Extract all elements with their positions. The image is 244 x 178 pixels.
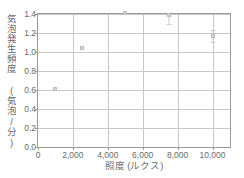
chart-figure: 気泡発生頻度 (気泡/分) 0.00.20.40.60.81.01.21.402… xyxy=(0,0,244,178)
x-tick-label: 10,000 xyxy=(200,151,226,160)
y-tick-label: 0.0 xyxy=(2,143,36,152)
gridline-horizontal xyxy=(38,90,230,91)
data-point xyxy=(53,87,57,91)
y-tick-label: 1.4 xyxy=(2,10,36,19)
gridline-horizontal xyxy=(38,71,230,72)
x-tick-label: 0 xyxy=(36,151,41,160)
x-tick-label: 2,000 xyxy=(62,151,83,160)
data-point xyxy=(167,13,171,17)
plot-area: 0.00.20.40.60.81.01.21.402,0004,0006,000… xyxy=(37,13,231,148)
x-axis-title: 照度 (ルクス) xyxy=(37,160,231,172)
x-tick-label: 6,000 xyxy=(132,151,153,160)
x-tick-label: 8,000 xyxy=(167,151,188,160)
data-point xyxy=(123,11,127,15)
chart-title xyxy=(0,0,244,3)
gridline-vertical xyxy=(143,14,144,147)
y-tick-label: 1.0 xyxy=(2,48,36,57)
y-tick-label: 0.6 xyxy=(2,86,36,95)
data-point xyxy=(80,46,84,50)
gridline-horizontal xyxy=(38,14,230,15)
gridline-horizontal xyxy=(38,109,230,110)
gridline-vertical xyxy=(178,14,179,147)
x-tick-label: 4,000 xyxy=(97,151,118,160)
error-bar-cap xyxy=(166,24,171,25)
gridline-horizontal xyxy=(38,33,230,34)
gridline-horizontal xyxy=(38,128,230,129)
y-tick-label: 1.2 xyxy=(2,29,36,38)
gridline-horizontal xyxy=(38,52,230,53)
y-tick-label: 0.8 xyxy=(2,67,36,76)
data-point xyxy=(211,34,215,38)
error-bar-cap xyxy=(210,42,215,43)
y-tick-label: 0.4 xyxy=(2,105,36,114)
gridline-vertical xyxy=(73,14,74,147)
gridline-vertical xyxy=(108,14,109,147)
error-bar-cap xyxy=(210,30,215,31)
y-tick-label: 0.2 xyxy=(2,124,36,133)
